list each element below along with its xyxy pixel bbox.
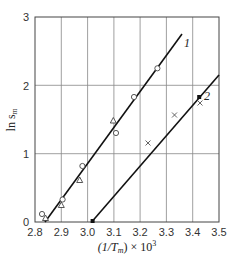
y-tick-1: 1 [23, 148, 29, 160]
x-tick-2.8: 2.8 [27, 226, 42, 238]
x-tick-3.4: 3.4 [185, 226, 200, 238]
data-point-circle [80, 163, 85, 168]
y-label-main: ln s [4, 114, 18, 131]
x-label-main: (1/T [98, 240, 119, 254]
data-point-circle [39, 211, 44, 216]
y-label-sub: m [10, 108, 19, 114]
x-tick-labels: 2.8 2.9 3.0 3.1 3.2 3.3 3.4 3.5 [27, 226, 226, 238]
x-label-tail: ) × 10 [124, 240, 153, 254]
data-point-filled-square [91, 219, 95, 223]
data-point-circle [60, 197, 65, 202]
data-point-triangle [110, 118, 116, 124]
x-tick-2.9: 2.9 [54, 226, 69, 238]
x-label-sup: 3 [152, 239, 156, 248]
series-2-label: 2 [204, 89, 210, 103]
series-1-label: 1 [184, 36, 190, 50]
data-point-cross [198, 101, 203, 106]
x-tick-3.5: 3.5 [211, 226, 226, 238]
x-tick-3.3: 3.3 [159, 226, 174, 238]
y-axis-label: ln sm [4, 108, 19, 131]
y-tick-3: 3 [23, 11, 29, 23]
series-2-crosses [146, 101, 203, 146]
plot-frame [35, 17, 219, 222]
x-tick-3.0: 3.0 [80, 226, 95, 238]
data-point-circle [113, 130, 118, 135]
y-tick-labels: 0 1 2 3 [23, 11, 29, 228]
x-axis-label: (1/Tm) × 103 [98, 239, 157, 255]
y-tick-2: 2 [23, 80, 29, 92]
data-point-circle [131, 94, 136, 99]
data-point-cross [172, 113, 177, 118]
series-1-triangles [43, 118, 117, 221]
x-tick-3.1: 3.1 [106, 226, 121, 238]
chart-svg: 0 1 2 3 2.8 2.9 3.0 3.1 3.2 3.3 3.4 3.5 … [0, 0, 238, 259]
data-point-circle [155, 66, 160, 71]
x-tick-3.2: 3.2 [132, 226, 147, 238]
data-point-filled-square [197, 95, 201, 99]
data-point-cross [146, 141, 151, 146]
grid [35, 17, 219, 222]
